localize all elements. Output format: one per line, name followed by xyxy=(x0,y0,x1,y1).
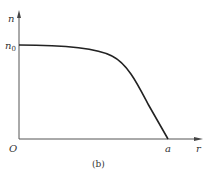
x-axis-label: r xyxy=(196,143,202,154)
x-tick-a-label: a xyxy=(165,143,171,154)
profile-curve xyxy=(19,45,168,139)
n0-label: n0 xyxy=(5,40,16,53)
y-axis-label: n xyxy=(8,13,14,24)
figure-caption: (b) xyxy=(92,159,105,169)
y-axis-arrow-icon xyxy=(17,10,21,18)
x-axis-arrow-icon xyxy=(194,137,203,141)
refractive-index-profile-diagram: n n0 O a r (b) xyxy=(0,0,215,182)
origin-label: O xyxy=(9,143,17,154)
